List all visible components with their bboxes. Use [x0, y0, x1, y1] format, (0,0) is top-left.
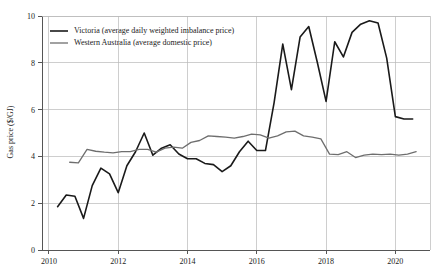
x-tick-label: 2012	[110, 257, 126, 266]
x-tick-label: 2010	[41, 257, 57, 266]
y-axis-title: Gas price ($/GJ)	[6, 105, 15, 158]
grid-lines	[42, 16, 430, 250]
data-series	[58, 21, 417, 219]
y-tick-label: 8	[31, 59, 35, 68]
series-line-victoria	[58, 21, 413, 219]
legend-label-victoria: Victoria (average daily weighted imbalan…	[74, 26, 234, 35]
axis-ticks	[38, 16, 395, 254]
y-tick-label: 6	[31, 106, 35, 115]
y-tick-label: 10	[27, 12, 35, 21]
y-tick-label: 0	[31, 246, 35, 255]
x-tick-label: 2020	[387, 257, 403, 266]
gas-price-chart: 0246810201020122014201620182020 Victoria…	[0, 0, 446, 279]
x-tick-label: 2018	[318, 257, 334, 266]
y-tick-label: 4	[31, 152, 35, 161]
chart-legend: Victoria (average daily weighted imbalan…	[50, 26, 234, 47]
axis-tick-labels: 0246810201020122014201620182020	[27, 12, 403, 266]
axes	[42, 16, 430, 250]
x-tick-label: 2014	[180, 257, 196, 266]
legend-label-western-australia: Western Australia (average domestic pric…	[74, 38, 212, 47]
y-tick-label: 2	[31, 199, 35, 208]
chart-canvas: 0246810201020122014201620182020 Victoria…	[0, 0, 446, 279]
x-tick-label: 2016	[249, 257, 265, 266]
